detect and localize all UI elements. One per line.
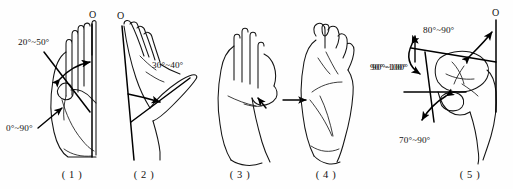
panel-2-illustration: 30°~40° O	[117, 10, 197, 160]
panel-3-illustration	[218, 28, 277, 165]
angle-label-90-100-p5: 90°~100°	[370, 62, 406, 72]
thumb-p2	[150, 75, 197, 121]
caption-group: ( 1 ) ( 2 ) ( 3 ) ( 4 ) ( 5 )	[62, 169, 481, 181]
angle-label-30-40: 30°~40°	[152, 60, 184, 70]
angle-label-70-90-p5: 70°~90°	[399, 135, 431, 145]
hand-outline-p5	[435, 51, 488, 92]
wrist-crease-p4	[311, 146, 339, 151]
crease1-p5	[452, 62, 464, 84]
crease2-p2	[146, 72, 164, 82]
hand-lower-p4	[314, 156, 340, 164]
crease5-p4	[318, 58, 330, 74]
fingers-p3	[234, 28, 264, 88]
angle-pointer-lower-p1	[38, 108, 62, 128]
crease3-p4	[320, 96, 333, 136]
angle-arc-p2	[128, 94, 160, 102]
thumb-axis-p2	[131, 78, 190, 122]
crease3-p5	[446, 74, 474, 79]
panel-5-illustration: 80°~90° 90°~100° 70°~90° O	[370, 7, 499, 164]
caption-panel-3: ( 3 )	[230, 169, 251, 181]
palm-outline-p4	[301, 40, 353, 162]
hand-lower-p3	[231, 98, 270, 165]
angle-label-0-90: 0°~90°	[6, 123, 33, 133]
panel-1-illustration: 20°~50° 0°~90° O	[6, 9, 96, 157]
hand-lower-p2	[153, 121, 160, 160]
caption-panel-4: ( 4 )	[316, 169, 337, 181]
caption-panel-5: ( 5 )	[460, 169, 481, 181]
angle-label-80-90-p5: 80°~90°	[423, 25, 455, 35]
panel-4-illustration: 90°~100°	[301, 23, 415, 164]
figure-root: 20°~50° 0°~90° O 30°~40° O	[0, 0, 513, 189]
origin-label-p2: O	[117, 10, 124, 21]
origin-label-p1: O	[89, 9, 96, 20]
origin-label-p5: O	[492, 7, 499, 18]
crease2-p3	[228, 96, 256, 106]
crease4-p4	[326, 52, 338, 74]
crease4-p5	[462, 84, 478, 96]
crease2-p5	[454, 66, 464, 84]
crease1-p4	[312, 82, 342, 92]
hand-right-p5	[470, 70, 496, 164]
caption-panel-2: ( 2 )	[134, 169, 155, 181]
ref-line-mid-vertical-p5	[425, 52, 434, 122]
palm-outline-p3	[218, 46, 275, 160]
ref-line-top-p5	[411, 48, 496, 62]
angle-label-20-50: 20°~50°	[18, 37, 50, 47]
diagram-canvas: 20°~50° 0°~90° O 30°~40° O	[0, 0, 513, 189]
fingers-p4	[314, 23, 354, 70]
thumb-p3	[252, 86, 277, 105]
angle-arc-upper-p1	[60, 62, 90, 79]
thenar-crease-p1	[62, 100, 94, 151]
thumb-pad-p5	[440, 92, 463, 111]
angle-arc-top-p5	[470, 32, 492, 56]
caption-panel-1: ( 1 )	[62, 169, 83, 181]
wrist-crease-p1	[64, 149, 92, 156]
